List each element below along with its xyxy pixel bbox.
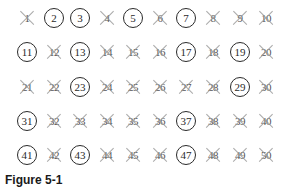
circled-prime-number: 43 [70, 145, 90, 165]
number-label: 35 [128, 115, 138, 127]
number-label: 40 [261, 115, 271, 127]
number-label: 15 [128, 46, 138, 58]
crossed-out-number: 6 [150, 8, 170, 28]
crossed-out-number: 9 [230, 8, 250, 28]
crossed-out-number: 26 [150, 77, 170, 97]
number-label: 5 [130, 12, 136, 24]
circled-prime-number: 3 [70, 8, 90, 28]
circled-prime-number: 11 [17, 42, 37, 62]
crossed-out-number: 45 [123, 145, 143, 165]
number-label: 12 [49, 46, 59, 58]
crossed-out-number: 33 [70, 111, 90, 131]
circled-prime-number: 47 [176, 145, 196, 165]
crossed-out-number: 4 [97, 8, 117, 28]
number-label: 20 [261, 46, 271, 58]
number-label: 23 [75, 81, 86, 93]
number-label: 10 [261, 12, 271, 24]
number-label: 30 [261, 81, 271, 93]
number-label: 19 [235, 46, 246, 58]
number-label: 16 [155, 46, 165, 58]
number-label: 36 [155, 115, 165, 127]
crossed-out-number: 42 [44, 145, 64, 165]
number-label: 21 [22, 81, 32, 93]
crossed-out-number: 48 [203, 145, 223, 165]
crossed-out-number: 32 [44, 111, 64, 131]
circled-prime-number: 19 [230, 42, 250, 62]
crossed-out-number: 30 [256, 77, 276, 97]
crossed-out-number: 44 [97, 145, 117, 165]
number-label: 50 [261, 149, 271, 161]
number-label: 44 [102, 149, 112, 161]
crossed-out-number: 38 [203, 111, 223, 131]
number-label: 45 [128, 149, 138, 161]
number-label: 1 [25, 12, 30, 24]
number-label: 39 [235, 115, 245, 127]
number-label: 49 [235, 149, 245, 161]
crossed-out-number: 8 [203, 8, 223, 28]
number-label: 42 [49, 149, 59, 161]
crossed-out-number: 22 [44, 77, 64, 97]
crossed-out-number: 10 [256, 8, 276, 28]
crossed-out-number: 35 [123, 111, 143, 131]
crossed-out-number: 39 [230, 111, 250, 131]
circled-prime-number: 7 [176, 8, 196, 28]
number-label: 28 [208, 81, 218, 93]
crossed-out-number: 12 [44, 42, 64, 62]
crossed-out-number: 16 [150, 42, 170, 62]
number-label: 34 [102, 115, 112, 127]
sieve-grid: 1234567891011121314151617181920212223242… [0, 0, 292, 172]
number-label: 48 [208, 149, 218, 161]
crossed-out-number: 21 [17, 77, 37, 97]
number-label: 14 [102, 46, 112, 58]
crossed-out-number: 24 [97, 77, 117, 97]
crossed-out-number: 14 [97, 42, 117, 62]
crossed-out-number: 20 [256, 42, 276, 62]
number-label: 33 [75, 115, 85, 127]
circled-prime-number: 2 [44, 8, 64, 28]
number-label: 11 [22, 46, 33, 58]
number-label: 4 [105, 12, 110, 24]
number-label: 27 [181, 81, 191, 93]
number-label: 8 [211, 12, 216, 24]
crossed-out-number: 34 [97, 111, 117, 131]
number-label: 47 [181, 149, 192, 161]
number-label: 26 [155, 81, 165, 93]
number-label: 41 [22, 149, 33, 161]
crossed-out-number: 36 [150, 111, 170, 131]
circled-prime-number: 31 [17, 111, 37, 131]
circled-prime-number: 5 [123, 8, 143, 28]
number-label: 43 [75, 149, 86, 161]
number-label: 9 [238, 12, 243, 24]
number-label: 2 [51, 12, 57, 24]
circled-prime-number: 13 [70, 42, 90, 62]
circled-prime-number: 23 [70, 77, 90, 97]
number-label: 13 [75, 46, 86, 58]
crossed-out-number: 28 [203, 77, 223, 97]
crossed-out-number: 49 [230, 145, 250, 165]
crossed-out-number: 27 [176, 77, 196, 97]
number-label: 37 [181, 115, 192, 127]
crossed-out-number: 40 [256, 111, 276, 131]
circled-prime-number: 37 [176, 111, 196, 131]
circled-prime-number: 29 [230, 77, 250, 97]
circled-prime-number: 17 [176, 42, 196, 62]
number-label: 46 [155, 149, 165, 161]
crossed-out-number: 1 [17, 8, 37, 28]
number-label: 3 [77, 12, 83, 24]
crossed-out-number: 50 [256, 145, 276, 165]
number-label: 18 [208, 46, 218, 58]
number-label: 38 [208, 115, 218, 127]
crossed-out-number: 25 [123, 77, 143, 97]
number-label: 7 [183, 12, 189, 24]
crossed-out-number: 46 [150, 145, 170, 165]
number-label: 32 [49, 115, 59, 127]
number-label: 22 [49, 81, 59, 93]
circled-prime-number: 41 [17, 145, 37, 165]
number-label: 29 [235, 81, 246, 93]
crossed-out-number: 18 [203, 42, 223, 62]
number-label: 25 [128, 81, 138, 93]
number-label: 31 [22, 115, 33, 127]
figure-caption: Figure 5-1 [5, 173, 62, 187]
number-label: 24 [102, 81, 112, 93]
number-label: 6 [158, 12, 163, 24]
